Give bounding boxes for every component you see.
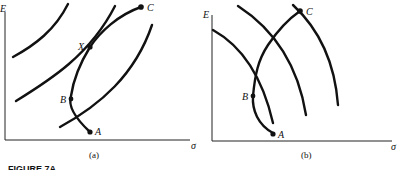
x-axis-label-b: σ xyxy=(391,141,397,152)
indifference-curve-1-b xyxy=(213,30,273,123)
indifference-curve-2-b xyxy=(238,6,306,115)
point-c-a xyxy=(138,4,144,10)
label-point-c-b: C xyxy=(306,6,313,17)
label-point-c-a: C xyxy=(147,2,154,13)
panel-b: E σ A B C (b) xyxy=(202,5,397,160)
point-b-a xyxy=(69,97,74,102)
point-c-b xyxy=(297,8,303,14)
label-point-b-a: B xyxy=(60,94,66,105)
panel-a: E σ A B X C (a) xyxy=(0,2,197,160)
x-axis-label-a: σ xyxy=(191,140,197,151)
point-x-a xyxy=(87,44,92,49)
indifference-curve-1-a xyxy=(13,4,68,57)
figure-caption: FIGURE 7A xyxy=(8,164,57,170)
figure-canvas: E σ A B X C (a) E σ A B C (b) xyxy=(0,0,399,170)
y-axis-label-b: E xyxy=(202,9,209,20)
axes-b xyxy=(212,15,392,141)
point-b-b xyxy=(251,94,256,99)
point-a-b xyxy=(270,131,275,136)
indifference-curve-2-a xyxy=(16,6,115,101)
y-axis-label-a: E xyxy=(0,3,6,14)
panel-label-b: (b) xyxy=(301,150,312,160)
label-point-a-b: A xyxy=(277,129,285,140)
label-point-b-b: B xyxy=(242,91,248,102)
point-a-a xyxy=(87,129,92,134)
label-point-x-a: X xyxy=(77,41,85,52)
label-point-a-a: A xyxy=(94,126,102,137)
panel-label-a: (a) xyxy=(89,150,99,160)
axes-a xyxy=(5,12,190,140)
